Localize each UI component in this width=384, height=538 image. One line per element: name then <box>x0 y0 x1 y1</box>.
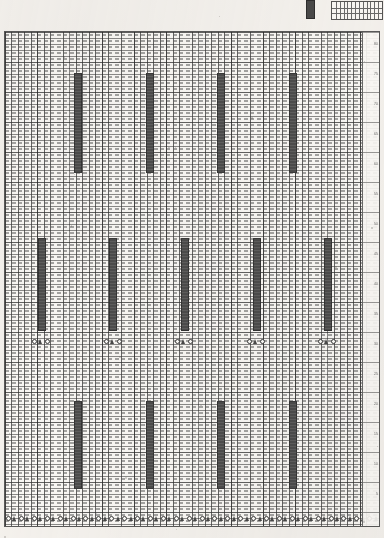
circle-symbol <box>45 516 50 521</box>
triangle-symbol <box>103 516 107 521</box>
gutter-tick-marks <box>363 32 379 526</box>
triangle-symbol <box>258 516 262 521</box>
pattern-bar <box>74 73 82 173</box>
row-number-label: 55 <box>374 191 378 196</box>
scan-speck <box>176 529 177 530</box>
pattern-bar <box>181 238 189 331</box>
circle-symbol <box>6 516 11 521</box>
triangle-symbol <box>64 516 68 521</box>
triangle-symbol <box>283 516 287 521</box>
circle-symbol <box>58 516 63 521</box>
row-number-label: 50 <box>374 221 378 226</box>
circle-symbol <box>200 516 205 521</box>
circle-symbol <box>318 339 323 344</box>
legend-grid-line <box>374 2 375 19</box>
major-gridlines <box>5 32 379 526</box>
pattern-bar <box>146 401 154 489</box>
row-number-label: 40 <box>374 281 378 286</box>
circle-symbol <box>260 339 265 344</box>
circle-symbol <box>264 516 269 521</box>
triangle-symbol <box>206 516 210 521</box>
circle-symbol <box>161 516 166 521</box>
triangle-symbol <box>141 516 145 521</box>
triangle-symbol <box>219 516 223 521</box>
pattern-bar <box>253 238 261 331</box>
triangle-symbol <box>129 516 133 521</box>
legend-strip <box>0 0 384 22</box>
row-number-label: 15 <box>374 431 378 436</box>
triangle-symbol <box>51 516 55 521</box>
pattern-bar <box>324 238 332 331</box>
circle-symbol <box>104 339 109 344</box>
row-number-label: 30 <box>374 341 378 346</box>
row-number-label: 80 <box>374 41 378 46</box>
triangle-symbol <box>180 516 184 521</box>
row-number-gutter: 8075706560555045403530252015105 <box>362 32 379 526</box>
pattern-bar <box>38 238 46 331</box>
triangle-symbol <box>110 339 114 344</box>
circle-symbol <box>32 339 37 344</box>
triangle-symbol <box>232 516 236 521</box>
row-number-label: 45 <box>374 251 378 256</box>
circle-symbol <box>290 516 295 521</box>
circle-symbol <box>45 339 50 344</box>
triangle-symbol <box>309 516 313 521</box>
circle-symbol <box>188 339 193 344</box>
triangle-symbol <box>77 516 81 521</box>
legend-grid-line <box>351 2 352 19</box>
legend-grid-line <box>332 13 382 14</box>
triangle-symbol <box>270 516 274 521</box>
legend-grid-line <box>344 2 345 19</box>
pattern-bar <box>289 73 297 173</box>
circle-symbol <box>329 516 334 521</box>
pattern-chart[interactable]: 8075706560555045403530252015105 <box>4 31 380 527</box>
legend-grid-line <box>378 2 379 19</box>
circle-symbol <box>331 339 336 344</box>
circle-symbol <box>71 516 76 521</box>
row-number-label: 75 <box>374 71 378 76</box>
pattern-bar <box>289 401 297 489</box>
pattern-bar <box>146 73 154 173</box>
triangle-symbol <box>167 516 171 521</box>
triangle-symbol <box>348 516 352 521</box>
circle-symbol <box>117 339 122 344</box>
pattern-bar <box>109 238 117 331</box>
row-number-label: 5 <box>376 491 378 496</box>
row-number-label: 70 <box>374 101 378 106</box>
triangle-symbol <box>322 516 326 521</box>
triangle-symbol <box>193 516 197 521</box>
legend-grid-line <box>347 2 348 19</box>
triangle-symbol <box>38 339 42 344</box>
triangle-symbol <box>296 516 300 521</box>
circle-symbol <box>148 516 153 521</box>
scan-speck <box>4 536 6 538</box>
legend-fill-swatch <box>306 0 315 19</box>
legend-grid-line <box>355 2 356 19</box>
pattern-sheet: 8075706560555045403530252015105 <box>0 0 384 538</box>
row-number-label: 65 <box>374 131 378 136</box>
circle-symbol <box>277 516 282 521</box>
circle-symbol <box>32 516 37 521</box>
circle-symbol <box>303 516 308 521</box>
triangle-symbol <box>12 516 16 521</box>
pattern-bar <box>217 401 225 489</box>
triangle-symbol <box>253 339 257 344</box>
circle-symbol <box>247 339 252 344</box>
row-number-label: 10 <box>374 461 378 466</box>
circle-symbol <box>187 516 192 521</box>
row-number-label: 60 <box>374 161 378 166</box>
triangle-symbol <box>90 516 94 521</box>
triangle-symbol <box>116 516 120 521</box>
row-number-label: 35 <box>374 311 378 316</box>
triangle-symbol <box>154 516 158 521</box>
legend-grid-line <box>367 2 368 19</box>
legend-grid-line <box>336 2 337 19</box>
triangle-symbol <box>25 516 29 521</box>
triangle-symbol <box>38 516 42 521</box>
pattern-bar <box>217 73 225 173</box>
circle-symbol <box>19 516 24 521</box>
circle-symbol <box>174 516 179 521</box>
legend-grid-line <box>363 2 364 19</box>
legend-grid-line <box>370 2 371 19</box>
legend-grid-line <box>359 2 360 19</box>
